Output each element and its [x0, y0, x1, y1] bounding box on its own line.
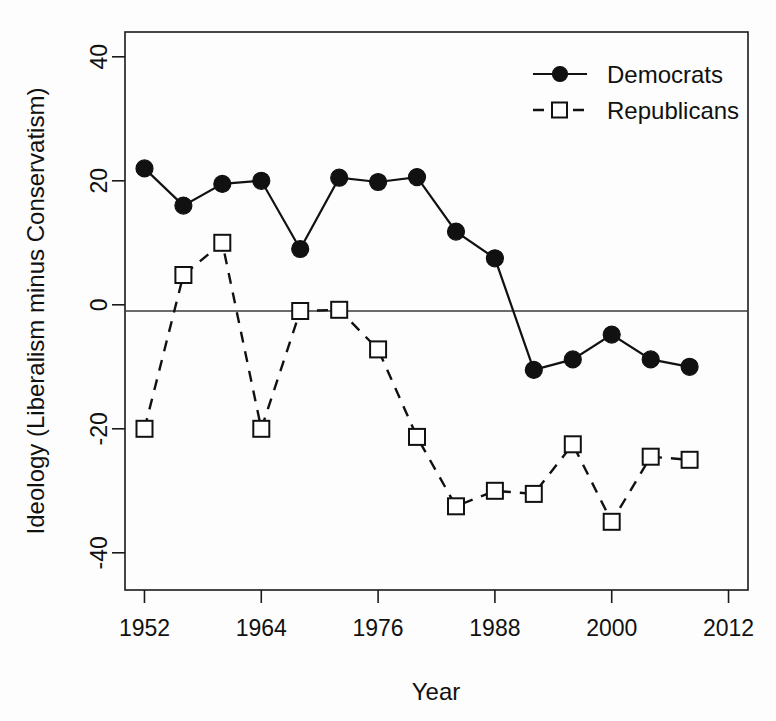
data-point-republicans-2004 [643, 449, 659, 465]
chart-container: 40200-20-40 195219641976198820002012 Ide… [0, 0, 776, 721]
data-point-democrats-1952 [136, 160, 153, 177]
data-point-republicans-1980 [409, 429, 425, 445]
data-point-democrats-1960 [214, 175, 231, 192]
data-point-republicans-1976 [370, 341, 386, 357]
x-axis-ticks: 195219641976198820002012 [119, 590, 754, 641]
data-point-democrats-1988 [486, 250, 503, 267]
x-tick-label: 2012 [703, 615, 754, 641]
data-point-republicans-2008 [682, 452, 698, 468]
x-tick-label: 1976 [353, 615, 404, 641]
ideology-line-chart: 40200-20-40 195219641976198820002012 Ide… [0, 0, 776, 721]
y-tick-label: 20 [86, 168, 112, 194]
y-tick-label: -20 [86, 412, 112, 445]
data-point-republicans-1960 [214, 235, 230, 251]
y-axis-title: Ideology (Liberalism minus Conservatism) [22, 88, 49, 535]
data-point-republicans-1952 [137, 421, 153, 437]
data-point-republicans-1968 [292, 303, 308, 319]
data-point-republicans-1984 [448, 498, 464, 514]
data-point-democrats-1992 [525, 361, 542, 378]
legend-label-republicans: Republicans [607, 97, 739, 124]
legend: Democrats Republicans [533, 61, 739, 124]
series-layer [136, 160, 698, 530]
y-tick-label: 40 [86, 44, 112, 70]
data-point-republicans-1988 [487, 483, 503, 499]
x-axis-title: Year [412, 678, 461, 705]
data-point-republicans-2000 [604, 514, 620, 530]
data-point-republicans-1992 [526, 486, 542, 502]
y-axis-ticks: 40200-20-40 [86, 44, 125, 569]
legend-marker-democrats [553, 67, 568, 82]
series-line-republicans [145, 243, 690, 522]
data-point-democrats-1972 [331, 169, 348, 186]
data-point-democrats-2004 [642, 351, 659, 368]
data-point-democrats-1956 [175, 197, 192, 214]
legend-item-democrats: Democrats [533, 61, 723, 88]
data-point-republicans-1964 [253, 421, 269, 437]
y-tick-label: 0 [86, 298, 112, 311]
data-point-democrats-1996 [564, 351, 581, 368]
data-point-democrats-2008 [681, 358, 698, 375]
x-tick-label: 2000 [586, 615, 637, 641]
x-tick-label: 1964 [236, 615, 287, 641]
data-point-republicans-1956 [175, 267, 191, 283]
data-point-democrats-1976 [370, 174, 387, 191]
data-point-democrats-1984 [448, 223, 465, 240]
legend-marker-republicans [552, 103, 567, 118]
legend-label-democrats: Democrats [607, 61, 723, 88]
x-tick-label: 1952 [119, 615, 170, 641]
legend-item-republicans: Republicans [533, 97, 739, 124]
data-point-republicans-1972 [331, 302, 347, 318]
data-point-republicans-1996 [565, 436, 581, 452]
data-point-democrats-2000 [603, 326, 620, 343]
data-point-democrats-1964 [253, 172, 270, 189]
x-tick-label: 1988 [469, 615, 520, 641]
data-point-democrats-1980 [409, 169, 426, 186]
y-tick-label: -40 [86, 536, 112, 569]
data-point-democrats-1968 [292, 241, 309, 258]
